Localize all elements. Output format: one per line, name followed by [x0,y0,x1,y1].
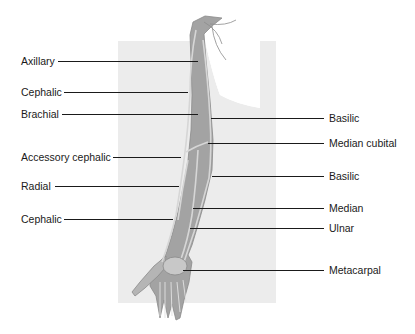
leader-axillary [58,61,198,62]
label-metacarpal: Metacarpal [329,264,381,276]
arm-illustration [0,0,415,334]
label-radial: Radial [21,180,51,192]
label-median-cubital: Median cubital [329,137,397,149]
leader-cephalic-upper [64,92,188,93]
leader-accessory-cephalic [113,157,181,158]
leader-ulnar [190,228,324,229]
leader-brachial [62,114,198,115]
label-median: Median [329,202,363,214]
label-axillary: Axillary [21,55,55,67]
leader-radial [55,186,179,187]
label-accessory-cephalic: Accessory cephalic [21,151,111,163]
leader-metacarpal [183,270,324,271]
carpal-region [163,257,187,275]
label-cephalic-upper: Cephalic [21,86,62,98]
label-ulnar: Ulnar [329,222,354,234]
leader-cephalic-lower [64,219,173,220]
leader-median-cubital [208,143,324,144]
label-basilic-lower: Basilic [329,170,359,182]
leader-basilic-upper [211,118,324,119]
label-cephalic-lower: Cephalic [21,213,62,225]
leader-basilic-lower [212,176,324,177]
leader-median [193,208,324,209]
arm-vein-diagram: Axillary Cephalic Brachial Accessory cep… [0,0,415,334]
label-basilic-upper: Basilic [329,112,359,124]
label-brachial: Brachial [21,108,59,120]
